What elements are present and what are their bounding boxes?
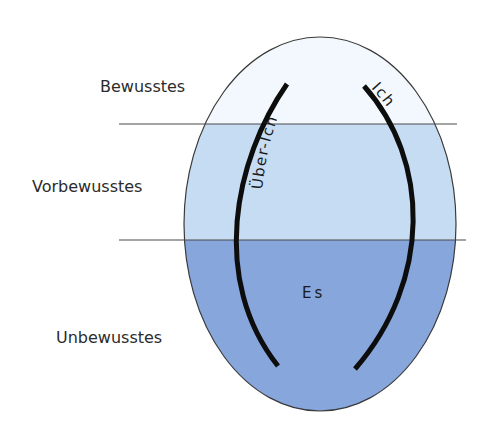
label-unconscious: Unbewusstes: [56, 328, 162, 347]
label-preconscious: Vorbewusstes: [32, 177, 142, 196]
label-conscious: Bewusstes: [100, 77, 185, 96]
unconscious-band: [180, 240, 470, 420]
freud-structural-model-diagram: Bewusstes Vorbewusstes Unbewusstes Über-…: [0, 0, 491, 426]
psyche-bands: [180, 30, 470, 420]
preconscious-band: [180, 124, 470, 240]
label-id: Es: [302, 284, 325, 302]
conscious-band: [180, 30, 470, 124]
